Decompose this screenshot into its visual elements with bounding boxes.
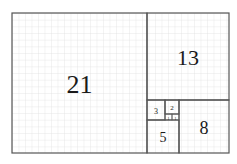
square-label: 21 bbox=[67, 70, 93, 99]
square-label: 13 bbox=[177, 45, 199, 70]
grid-background bbox=[12, 13, 229, 153]
square-label: 5 bbox=[160, 130, 167, 145]
square-label: 2 bbox=[170, 104, 174, 112]
square-label: 3 bbox=[154, 107, 158, 116]
fibonacci-diagram: 2113853211 bbox=[0, 0, 237, 164]
square-label: 1 bbox=[168, 116, 170, 121]
square-label: 1 bbox=[175, 116, 177, 121]
square-label: 8 bbox=[200, 118, 209, 138]
